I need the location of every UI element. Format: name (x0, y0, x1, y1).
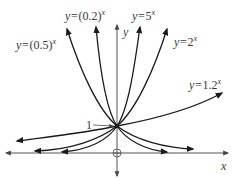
label-curve-5: y=5x (132, 9, 155, 22)
exponential-functions-diagram: y=(0.5)x y=(0.2)x y=5x y=2x y=1.2x y x 1 (0, 0, 232, 179)
curve-1.2-pow-x (17, 93, 222, 141)
intersection-pointer-arrow (93, 125, 113, 126)
label-curve-0.2: y=(0.2)x (65, 9, 105, 22)
label-curve-1.2: y=1.2x (189, 78, 221, 91)
x-axis-label: x (221, 160, 226, 172)
label-curve-0.5: y=(0.5)x (16, 38, 56, 51)
label-curve-2: y=2x (174, 35, 197, 48)
intersection-point (115, 124, 119, 128)
intersection-label: 1 (86, 119, 92, 131)
y-axis-label: y (123, 26, 128, 38)
